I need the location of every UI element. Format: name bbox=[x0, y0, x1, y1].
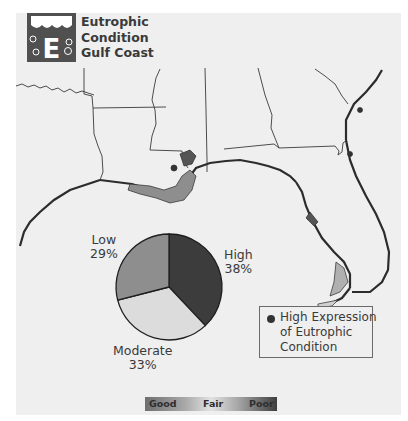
scale-label-good: Good bbox=[149, 398, 177, 409]
pie-label-high: High 38% bbox=[224, 248, 253, 276]
state-boundaries bbox=[16, 68, 348, 180]
condition-scale-bar: Good Fair Poor bbox=[145, 397, 277, 411]
legend-line: High Expression bbox=[280, 310, 377, 325]
filled-circle-icon bbox=[267, 315, 275, 323]
scale-label-fair: Fair bbox=[203, 398, 223, 409]
pie-label-low: Low 29% bbox=[90, 233, 118, 261]
map-legend: High Expression of Eutrophic Condition bbox=[259, 306, 373, 358]
pie-chart bbox=[116, 234, 222, 340]
scale-label-poor: Poor bbox=[249, 398, 274, 409]
legend-line: of Eutrophic bbox=[280, 325, 377, 340]
svg-text:E: E bbox=[43, 34, 61, 62]
icon-graphic: E bbox=[27, 13, 76, 62]
eutrophic-water-icon: E bbox=[27, 13, 76, 62]
title-line: Condition bbox=[81, 30, 154, 46]
legend-line: Condition bbox=[280, 340, 377, 355]
title-line: Eutrophic bbox=[81, 14, 154, 30]
pie-label-moderate: Moderate 33% bbox=[113, 344, 172, 372]
title-line: Gulf Coast bbox=[81, 45, 154, 61]
map-title: Eutrophic Condition Gulf Coast bbox=[81, 14, 154, 61]
